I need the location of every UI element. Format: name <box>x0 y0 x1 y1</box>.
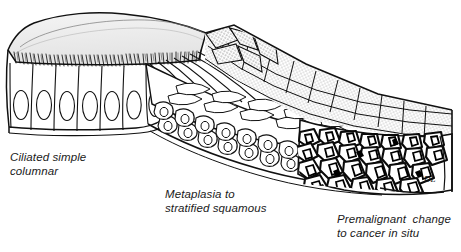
illustration-canvas: DL Ciliated simple columnar Metaplasia t… <box>0 0 461 252</box>
artist-signature: DL <box>423 174 436 184</box>
basement-membrane-columnar <box>9 120 166 136</box>
label-metaplasia-stratified-squamous: Metaplasia to stratified squamous <box>165 188 267 215</box>
label-premalignant-cancer-in-situ: Premalignant change to cancer in situ <box>337 213 451 240</box>
columnar-cell-walls <box>10 63 148 131</box>
label-ciliated-simple-columnar: Ciliated simple columnar <box>10 151 86 178</box>
cut-face-left <box>7 50 9 133</box>
columnar-nuclei <box>14 91 162 121</box>
